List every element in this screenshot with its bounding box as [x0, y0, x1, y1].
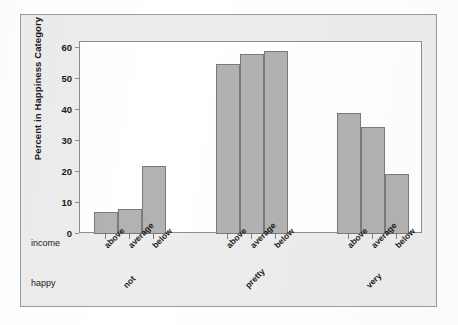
y-tick-mark [75, 78, 79, 79]
row-header-happy: happy [31, 278, 56, 288]
bar [240, 54, 264, 234]
plot-area [79, 41, 422, 233]
row-header-income: income [31, 238, 60, 248]
bar [337, 113, 361, 234]
y-tick-mark [75, 140, 79, 141]
y-tick-label: 10 [54, 197, 72, 208]
y-axis-title: Percent in Happiness Category [32, 0, 43, 189]
y-tick-label: 50 [54, 73, 72, 84]
y-tick-label: 60 [54, 42, 72, 53]
y-tick-mark [75, 171, 79, 172]
y-tick-label: 0 [54, 228, 72, 239]
y-tick-mark [75, 233, 79, 234]
y-tick-label: 30 [54, 135, 72, 146]
bar-chart-figure: Percent in Happiness Category income hap… [0, 0, 458, 325]
bar [216, 64, 240, 234]
y-tick-mark [75, 202, 79, 203]
y-tick-label: 40 [54, 104, 72, 115]
y-tick-label: 20 [54, 166, 72, 177]
y-tick-mark [75, 47, 79, 48]
bar [264, 51, 288, 234]
y-tick-mark [75, 109, 79, 110]
bar [361, 127, 385, 234]
